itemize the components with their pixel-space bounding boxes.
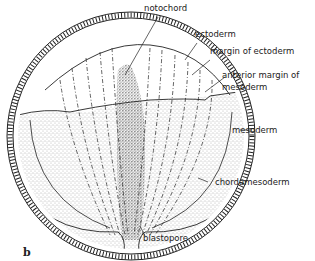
label-chordamesoderm: chordamesoderm [215, 178, 290, 187]
label-mesoderm: mesoderm [232, 126, 277, 135]
label-blastopore: blastopore [143, 234, 188, 243]
label-notochord: notochord [144, 4, 187, 13]
label-anterior-margin-line2: mesoderm [222, 83, 267, 92]
embryo-body [10, 45, 252, 261]
label-margin-of-ectoderm: margin of ectoderm [210, 47, 294, 56]
panel-letter: b [23, 246, 31, 259]
label-anterior-margin-line1: anterior margin of [222, 71, 299, 80]
label-ectoderm: ectoderm [195, 30, 236, 39]
